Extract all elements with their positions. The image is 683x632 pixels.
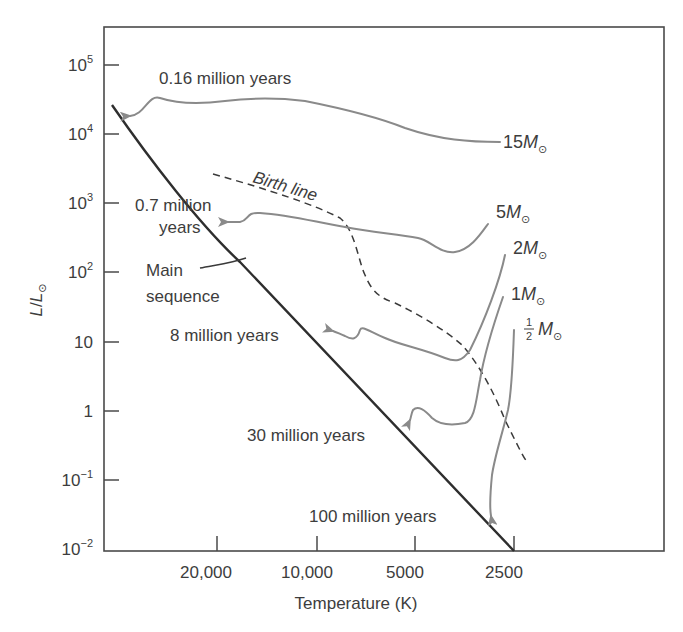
label-07-myr-line1: 0.7 million (135, 196, 212, 215)
y-tick-label: 104 (68, 122, 93, 144)
hr-diagram: 105 104 103 102 10 1 10−1 10−2 L/L⊙ 20,0… (0, 0, 683, 632)
y-tick-label: 10−1 (62, 468, 93, 490)
label-30-myr: 30 million years (247, 426, 365, 445)
y-tick-label: 10 (74, 333, 93, 352)
label-mass-5: 5M⊙ (496, 202, 530, 225)
x-tick-label: 5000 (386, 563, 424, 582)
track-5-msun (228, 213, 488, 252)
y-tick-label: 103 (68, 191, 93, 213)
track-15-msun (130, 97, 500, 142)
main-sequence-leader-line (200, 258, 246, 268)
svg-text:1: 1 (526, 316, 532, 328)
label-mass-15: 15M⊙ (503, 132, 547, 155)
y-tick-label: 105 (68, 53, 93, 75)
x-axis-title: Temperature (K) (295, 594, 418, 613)
track-half-msun (490, 330, 514, 516)
label-main-sequence-line1: Main (146, 261, 183, 280)
y-tick-label: 102 (68, 260, 93, 282)
track-2-msun (333, 255, 505, 360)
x-tick-label: 10,000 (281, 563, 333, 582)
y-axis: 105 104 103 102 10 1 10−1 10−2 L/L⊙ (27, 53, 119, 559)
svg-text:2: 2 (526, 330, 532, 342)
label-016-myr: 0.16 million years (159, 69, 291, 88)
label-100-myr: 100 million years (309, 507, 437, 526)
svg-text:L/L⊙: L/L⊙ (27, 284, 48, 317)
y-tick-label: 10−2 (62, 537, 93, 559)
birth-line (213, 174, 527, 462)
x-tick-label: 2500 (485, 563, 523, 582)
svg-text:M⊙: M⊙ (538, 319, 562, 342)
label-mass-2: 2M⊙ (513, 238, 547, 261)
label-8-myr: 8 million years (170, 326, 279, 345)
y-axis-title: L/L⊙ (27, 284, 48, 317)
label-mass-half: 1 2 M⊙ (524, 316, 562, 342)
x-axis: 20,000 10,000 5000 2500 Temperature (K) (180, 536, 523, 613)
label-07-myr-line2: years (159, 218, 201, 237)
y-tick-label: 1 (84, 402, 93, 421)
x-tick-label: 20,000 (180, 563, 232, 582)
label-birth-line: Birth line (251, 168, 320, 206)
label-main-sequence-line2: sequence (146, 287, 220, 306)
label-mass-1: 1M⊙ (511, 284, 545, 307)
